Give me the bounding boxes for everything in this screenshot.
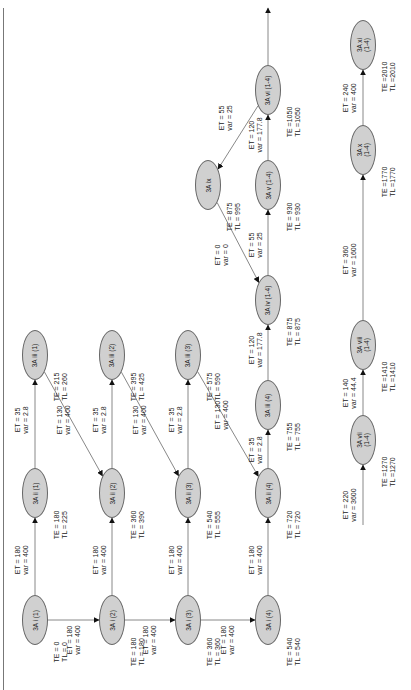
activity-node-iii1: 3A iii (1) bbox=[22, 330, 48, 380]
node-label: 3A iii (1) bbox=[31, 343, 38, 366]
node-times-label: TE = 540 TL = 555 bbox=[206, 503, 222, 547]
edge-label: ET = 0 var = 0 bbox=[214, 235, 230, 275]
node-label: 3A vi (1-4) bbox=[265, 75, 272, 105]
edge-label: ET = 35 var = 2.8 bbox=[168, 400, 184, 440]
node-label: 3A viii (1-4) bbox=[356, 337, 370, 354]
activity-node-ii3: 3A ii (3) bbox=[175, 468, 201, 518]
node-times-label: TE = 360 TL = 360 bbox=[206, 630, 222, 674]
node-times-label: TE =1410 TL =1410 bbox=[381, 355, 397, 399]
edge-label: ET = 120 var = 177.8 bbox=[248, 330, 264, 370]
node-label: 3A ii (3) bbox=[184, 482, 191, 504]
node-times-label: TE = 755 TL = 755 bbox=[286, 415, 302, 459]
activity-node-xi: 3A xi (1-4) bbox=[350, 20, 376, 70]
node-times-label: TE = 180 TL = 225 bbox=[53, 503, 69, 547]
node-times-label: TE = 540 TL = 540 bbox=[286, 630, 302, 674]
node-label: 3A v (1-4) bbox=[265, 171, 272, 199]
node-label: 3A vii (1-4) bbox=[356, 432, 370, 448]
activity-node-vi: 3A vi (1-4) bbox=[255, 65, 281, 115]
node-label: 3A xi (1-4) bbox=[356, 38, 370, 52]
edge-label: ET = 360 var = 1600 bbox=[342, 240, 358, 280]
edge-label: ET = 35 var = 2.8 bbox=[92, 400, 108, 440]
node-times-label: TE = 180 TL = 180 bbox=[130, 630, 146, 674]
node-label: 3A i (2) bbox=[109, 610, 116, 631]
activity-node-ii4: 3A ii (4) bbox=[255, 468, 281, 518]
node-label: 3A i (4) bbox=[265, 610, 272, 631]
edge-label: ET = 35 var = 2.8 bbox=[14, 400, 30, 440]
activity-node-ix: 3A ix bbox=[195, 160, 221, 210]
node-times-label: TE = 360 TL = 390 bbox=[130, 503, 146, 547]
node-times-label: TE =1270 TL =1270 bbox=[381, 450, 397, 494]
node-times-label: TE = 720 TL = 720 bbox=[286, 503, 302, 547]
edge-label: ET = 180 var = 400 bbox=[92, 540, 108, 580]
edge-label: ET = 180 var = 400 bbox=[168, 540, 184, 580]
edge-label: ET = 180 var = 400 bbox=[248, 540, 264, 580]
node-label: 3A x (1-4) bbox=[356, 143, 370, 157]
activity-node-i2: 3A i (2) bbox=[99, 595, 125, 645]
node-times-label: TE = 875 TL = 875 bbox=[286, 310, 302, 354]
node-label: 3A ix bbox=[205, 178, 212, 192]
node-times-label: TE = 395 TL = 425 bbox=[130, 365, 146, 409]
activity-node-ii1: 3A ii (1) bbox=[22, 468, 48, 518]
node-times-label: TE =2010 TL =2010 bbox=[381, 55, 397, 99]
node-label: 3A i (3) bbox=[185, 610, 192, 631]
node-label: 3A ii (1) bbox=[31, 482, 38, 504]
node-label: 3A iv (1-4) bbox=[265, 285, 272, 315]
edge-label: ET = 180 var = 400 bbox=[220, 620, 236, 660]
activity-node-iii2: 3A iii (2) bbox=[99, 330, 125, 380]
activity-node-i4: 3A i (4) bbox=[255, 595, 281, 645]
node-times-label: TE = 575 TL = 590 bbox=[206, 365, 222, 409]
edge-label: ET = 55 var = 25 bbox=[218, 98, 234, 138]
node-label: 3A iii (2) bbox=[108, 343, 115, 366]
activity-node-iii3: 3A iii (3) bbox=[175, 330, 201, 380]
node-times-label: TE =1770 TL =1770 bbox=[381, 160, 397, 204]
activity-node-iii4: 3A iii (4) bbox=[255, 380, 281, 430]
node-label: 3A iii (3) bbox=[184, 343, 191, 366]
edge-label: ET = 55 var = 25 bbox=[248, 225, 264, 265]
activity-node-iv: 3A iv (1-4) bbox=[255, 275, 281, 325]
activity-node-ii2: 3A ii (2) bbox=[99, 468, 125, 518]
activity-node-vii: 3A vii (1-4) bbox=[350, 415, 376, 465]
node-label: 3A i (1) bbox=[32, 610, 39, 631]
edge-label: ET = 180 var = 400 bbox=[14, 540, 30, 580]
node-times-label: TE = 0 TL = 0 bbox=[53, 630, 69, 674]
activity-node-viii: 3A viii (1-4) bbox=[350, 320, 376, 370]
activity-node-x: 3A x (1-4) bbox=[350, 125, 376, 175]
edge-label: ET = 35 var = 2.8 bbox=[248, 430, 264, 470]
edge-label: ET = 240 var = 400 bbox=[342, 78, 358, 118]
node-label: 3A ii (2) bbox=[108, 482, 115, 504]
activity-node-i3: 3A i (3) bbox=[175, 595, 201, 645]
activity-node-i1: 3A i (1) bbox=[22, 595, 48, 645]
node-times-label: TE =1050 TL =1050 bbox=[286, 100, 302, 144]
edge-label: ET = 120 var = 177.8 bbox=[248, 115, 264, 155]
edge-label: ET = 220 var = 3600 bbox=[342, 485, 358, 525]
node-times-label: TE = 875 TL = 995 bbox=[226, 195, 242, 239]
edge-label: ET = 140 var = 44.4 bbox=[342, 373, 358, 413]
node-times-label: TE = 215 TL = 260 bbox=[53, 365, 69, 409]
node-label: 3A iii (4) bbox=[264, 393, 271, 416]
node-times-label: TE = 930 TL = 930 bbox=[286, 195, 302, 239]
activity-node-v: 3A v (1-4) bbox=[255, 160, 281, 210]
node-label: 3A ii (4) bbox=[264, 482, 271, 504]
